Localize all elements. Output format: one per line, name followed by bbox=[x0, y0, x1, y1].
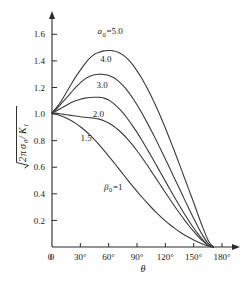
annotation-beta0: β0=1 bbox=[103, 182, 123, 194]
x-tick-label-120: 120° bbox=[157, 252, 175, 262]
y-tick-label-0.2: 0.2 bbox=[34, 216, 45, 226]
curve-label-value: 4.0 bbox=[100, 54, 112, 64]
chart-annotations: β0=1 bbox=[103, 182, 123, 194]
y-axis-title-math: 2 π σ 0 / K 1 bbox=[17, 106, 30, 168]
svg-text:2: 2 bbox=[17, 157, 28, 162]
y-axis-title: 2 π σ 0 / K 1 bbox=[17, 106, 30, 168]
curve-label-5.0: a0=5.0 bbox=[98, 26, 124, 38]
curve-label-value: =5.0 bbox=[107, 26, 124, 36]
y-tick-label-0.4: 0.4 bbox=[34, 189, 46, 199]
y-tick-label-1: 1.0 bbox=[34, 109, 46, 119]
y-tick-label-1.2: 1.2 bbox=[34, 83, 45, 93]
x-tick-label-90: 90° bbox=[131, 252, 144, 262]
y-tick-label-1.6: 1.6 bbox=[34, 29, 46, 39]
svg-text:θ: θ bbox=[141, 263, 146, 274]
y-tick-label-0.8: 0.8 bbox=[34, 136, 46, 146]
curve-label-subscript: 0 bbox=[103, 31, 106, 38]
svg-text:/: / bbox=[17, 135, 28, 140]
x-axis-title: θ bbox=[141, 263, 146, 274]
x-axis-tick-labels: 030°60°90°120°150°180° bbox=[50, 252, 231, 262]
svg-text:1: 1 bbox=[22, 124, 29, 127]
annotation-subscript: 0 bbox=[109, 186, 112, 193]
x-tick-label-60: 60° bbox=[102, 252, 115, 262]
curve-a0-3.0 bbox=[52, 97, 214, 247]
y-axis-tick-labels: 0.20.40.60.81.01.21.41.60 bbox=[34, 29, 53, 262]
curve-a0-5.0 bbox=[52, 50, 214, 247]
curve-label-value: 1.5 bbox=[80, 133, 92, 143]
x-tick-label-150: 150° bbox=[185, 252, 203, 262]
data-curves bbox=[52, 50, 214, 247]
curve-label-1.5: 1.5 bbox=[80, 133, 92, 143]
y-tick-label-0.6: 0.6 bbox=[34, 162, 46, 172]
chart-figure: 030°60°90°120°150°180° 0.20.40.60.81.01.… bbox=[0, 0, 249, 281]
svg-text:π: π bbox=[17, 150, 28, 156]
plot-area: 030°60°90°120°150°180° 0.20.40.60.81.01.… bbox=[0, 0, 249, 281]
curve-labels: a0=5.04.03.02.01.5 bbox=[80, 26, 123, 142]
x-axis-arrowhead bbox=[232, 244, 240, 250]
curve-label-2.0: 2.0 bbox=[93, 109, 105, 119]
curve-a0-2.0 bbox=[52, 113, 214, 247]
y-axis-ticks bbox=[52, 34, 57, 220]
curve-label-3.0: 3.0 bbox=[96, 80, 108, 90]
annotation-value: =1 bbox=[113, 182, 123, 192]
x-tick-label-180: 180° bbox=[213, 252, 231, 262]
axes-group bbox=[49, 11, 240, 250]
x-tick-label-30: 30° bbox=[74, 252, 87, 262]
curve-label-value: 2.0 bbox=[93, 109, 105, 119]
y-axis-arrowhead bbox=[49, 11, 55, 19]
y-tick-label-1.4: 1.4 bbox=[34, 56, 46, 66]
origin-label: 0 bbox=[48, 252, 53, 262]
curve-label-value: 3.0 bbox=[96, 80, 108, 90]
curve-label-4.0: 4.0 bbox=[100, 54, 112, 64]
